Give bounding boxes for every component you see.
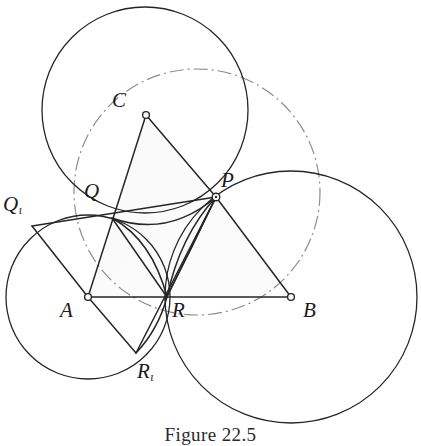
point-label-R-text: R (172, 298, 185, 322)
point-label-Q1-subscript: ι (18, 203, 22, 217)
point-label-B-text: B (303, 298, 316, 322)
point-label-R1-text: R (137, 359, 150, 383)
point-label-Q: Q (84, 181, 99, 202)
figure-caption: Figure 22.5 (0, 424, 421, 446)
point-label-A: A (60, 300, 73, 321)
point-label-P-text: P (221, 168, 234, 192)
point-label-P: P (221, 170, 234, 191)
point-label-Q1-text: Q (3, 192, 18, 216)
point-label-B: B (303, 300, 316, 321)
point-label-C-text: C (112, 88, 126, 112)
vertex-marker-P-center (215, 196, 217, 198)
point-label-R1-subscript: ι (150, 370, 154, 384)
point-label-R: R (172, 300, 185, 321)
point-label-Q-text: Q (84, 179, 99, 203)
vertex-marker-A (85, 294, 92, 301)
segment-Q1-A (32, 226, 88, 297)
point-label-Q1: Qι (3, 194, 22, 216)
point-label-C: C (112, 90, 126, 111)
point-label-R1: Rι (137, 361, 154, 383)
segment-A-R1 (88, 297, 136, 353)
vertex-marker-B (288, 294, 295, 301)
point-label-A-text: A (60, 298, 73, 322)
vertex-marker-C (143, 112, 150, 119)
